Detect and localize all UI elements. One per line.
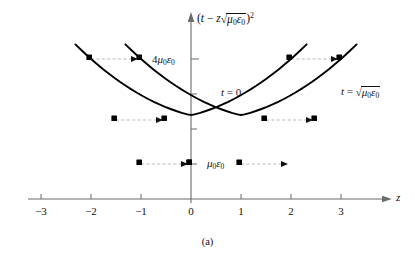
y-axis-ticks bbox=[191, 59, 199, 164]
shift-arrows-group bbox=[91, 59, 337, 164]
curve-label-t-sqrt: t = √μ0ε0 bbox=[341, 85, 380, 99]
x-tick-label: 2 bbox=[281, 205, 301, 217]
data-point bbox=[136, 54, 142, 60]
x-tick-label: 1 bbox=[231, 205, 251, 217]
data-point bbox=[336, 54, 342, 60]
y-tick-label-mu0eps0: μ0ε0 bbox=[207, 158, 224, 171]
data-point bbox=[111, 115, 117, 121]
data-point bbox=[136, 159, 142, 165]
x-tick-label: 3 bbox=[331, 205, 351, 217]
data-point bbox=[161, 115, 167, 121]
x-axis-label: z bbox=[396, 192, 400, 203]
y-axis-label: (t − z√μ0ε0)2 bbox=[197, 12, 254, 26]
x-tick-label: −1 bbox=[131, 205, 151, 217]
data-point bbox=[236, 159, 242, 165]
x-tick-label: −2 bbox=[81, 205, 101, 217]
curve-label-t-zero: t = 0 bbox=[221, 87, 241, 98]
markers-curve-t-sqrt bbox=[136, 54, 342, 165]
y-tick-label-4mu0eps0: 4μ0ε0 bbox=[152, 54, 175, 67]
data-point bbox=[311, 115, 317, 121]
data-point bbox=[286, 54, 292, 60]
wave-translation-figure bbox=[0, 0, 415, 260]
data-point bbox=[186, 159, 192, 165]
x-tick-label: −3 bbox=[31, 205, 51, 217]
figure-caption: (a) bbox=[0, 236, 415, 247]
x-tick-label: 0 bbox=[181, 205, 201, 217]
data-point bbox=[261, 115, 267, 121]
data-point bbox=[86, 54, 92, 60]
